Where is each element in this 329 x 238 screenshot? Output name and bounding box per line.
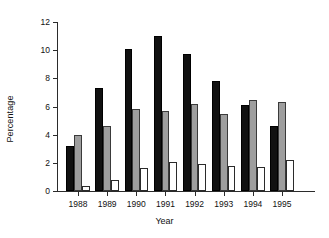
- bar-series-1-black-1991: [154, 36, 162, 191]
- bar-series-3-white-1995: [286, 160, 294, 191]
- y-tick-label: 6: [45, 102, 50, 112]
- y-tick: [53, 107, 57, 108]
- x-tick: [136, 192, 137, 196]
- bar-series-1-black-1989: [95, 88, 103, 191]
- y-tick: [53, 135, 57, 136]
- bar-series-3-white-1988: [82, 186, 90, 191]
- y-axis-title: Percentage: [0, 0, 20, 238]
- y-tick-label: 12: [41, 17, 50, 27]
- bar-series-1-black-1988: [66, 146, 74, 191]
- y-tick: [53, 78, 57, 79]
- x-tick: [107, 192, 108, 196]
- x-tick-label: 1992: [185, 199, 204, 209]
- x-tick-label: 1994: [243, 199, 262, 209]
- y-tick: [53, 50, 57, 51]
- y-tick: [53, 163, 57, 164]
- x-tick-label: 1990: [127, 199, 146, 209]
- bar-series-3-white-1994: [257, 167, 265, 191]
- x-tick-label: 1995: [273, 199, 292, 209]
- bar-series-2-gray-1990: [132, 109, 140, 191]
- y-tick: [53, 191, 57, 192]
- x-axis-line: [57, 191, 315, 192]
- plot-area: 024681012 198819891990199119921993199419…: [57, 22, 315, 192]
- bar-series-3-white-1993: [228, 166, 236, 191]
- bar-series-2-gray-1988: [74, 135, 82, 191]
- bar-series-3-white-1989: [111, 180, 119, 191]
- bar-series-1-black-1992: [183, 54, 191, 191]
- x-tick-label: 1988: [69, 199, 88, 209]
- bar-series-2-gray-1991: [162, 111, 170, 191]
- bar-series-2-gray-1993: [220, 114, 228, 191]
- y-tick-label: 2: [45, 158, 50, 168]
- bar-series-1-black-1995: [270, 126, 278, 191]
- y-tick: [53, 22, 57, 23]
- bar-chart: Percentage Year 024681012 19881989199019…: [0, 0, 329, 238]
- y-tick-label: 8: [45, 73, 50, 83]
- bar-series-2-gray-1994: [249, 100, 257, 191]
- x-tick-label: 1993: [214, 199, 233, 209]
- x-tick: [78, 192, 79, 196]
- bar-series-2-gray-1989: [103, 126, 111, 191]
- y-axis-line: [57, 22, 58, 192]
- bar-series-3-white-1990: [140, 168, 148, 191]
- bar-series-3-white-1992: [198, 164, 206, 191]
- bar-series-1-black-1994: [241, 105, 249, 191]
- x-tick-label: 1991: [156, 199, 175, 209]
- x-axis-title: Year: [0, 216, 329, 226]
- x-tick: [165, 192, 166, 196]
- x-tick: [282, 192, 283, 196]
- x-tick: [195, 192, 196, 196]
- bar-series-3-white-1991: [169, 162, 177, 191]
- bar-series-1-black-1993: [212, 81, 220, 191]
- x-tick-label: 1989: [98, 199, 117, 209]
- bar-series-2-gray-1992: [191, 104, 199, 191]
- y-tick-label: 10: [41, 45, 50, 55]
- x-tick: [224, 192, 225, 196]
- x-tick: [253, 192, 254, 196]
- bar-series-1-black-1990: [125, 49, 133, 191]
- y-tick-label: 4: [45, 130, 50, 140]
- bar-series-2-gray-1995: [278, 102, 286, 191]
- y-tick-label: 0: [45, 186, 50, 196]
